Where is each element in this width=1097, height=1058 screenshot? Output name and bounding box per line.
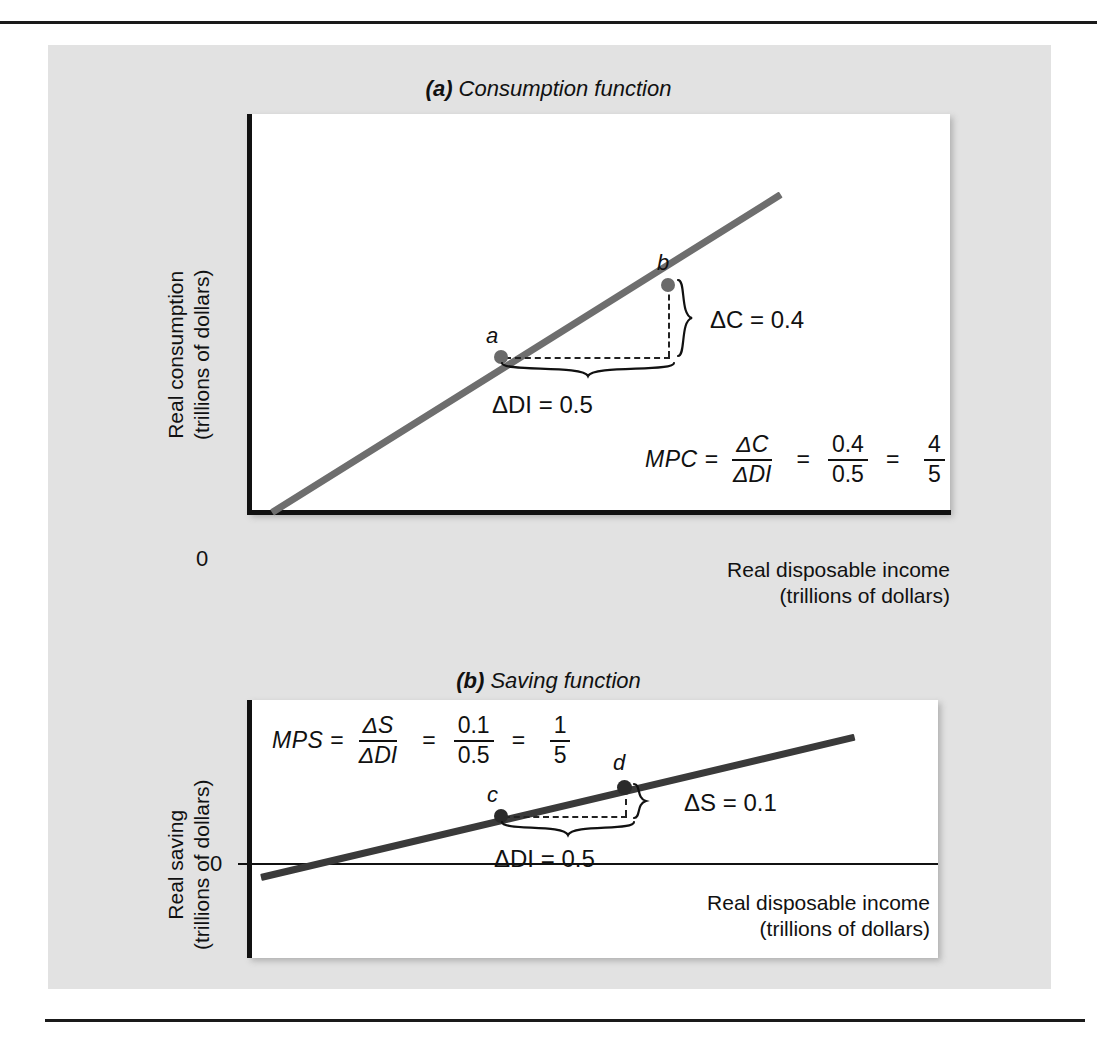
mpc-fraction-symbols: ΔC ΔDI bbox=[729, 432, 775, 488]
mps-equation-name: MPS bbox=[272, 727, 323, 754]
mpc-equals-3: = bbox=[886, 446, 899, 473]
mps-equals-3: = bbox=[512, 727, 525, 754]
mpc-numerator-1: ΔC bbox=[732, 432, 772, 461]
panel-a-title-text: Consumption function bbox=[452, 76, 671, 101]
mps-numerator-1: ΔS bbox=[359, 713, 398, 742]
panel-b-origin-label: 0 bbox=[210, 851, 222, 877]
panel-a-x-axis-label-line2: (trillions of dollars) bbox=[470, 583, 950, 609]
panel-b-title: (b) Saving function bbox=[0, 668, 1097, 694]
mps-equals-2: = bbox=[422, 727, 435, 754]
mpc-denominator-2: 0.5 bbox=[828, 461, 868, 488]
point-d-label: d bbox=[613, 750, 625, 776]
panel-b-vertical-brace-icon bbox=[631, 782, 653, 822]
mpc-fraction-values: 0.4 0.5 bbox=[821, 432, 875, 488]
mpc-equation: MPC = ΔC ΔDI = 0.4 0.5 = 4 5 bbox=[645, 432, 952, 488]
panel-a-delta-c-annotation: ΔC = 0.4 bbox=[710, 306, 804, 334]
panel-a-x-axis-label-line1: Real disposable income bbox=[470, 557, 950, 583]
mps-numerator-2: 0.1 bbox=[454, 713, 494, 742]
mpc-numerator-3: 4 bbox=[924, 432, 945, 461]
panel-a-horizontal-brace-icon bbox=[500, 360, 678, 384]
panel-b-y-axis-label: Real saving (trillions of dollars) bbox=[163, 780, 214, 950]
panel-a-vertical-dashed-line bbox=[668, 285, 670, 357]
bottom-divider-rule bbox=[45, 1019, 1085, 1022]
panel-a-letter: (a) bbox=[426, 76, 453, 101]
panel-a-y-axis-label: Real consumption (trillions of dollars) bbox=[163, 270, 214, 440]
figure-root: (a) Consumption function Real consumptio… bbox=[0, 0, 1097, 1058]
point-a-label: a bbox=[486, 323, 498, 349]
panel-a-x-axis bbox=[247, 510, 951, 515]
mps-denominator-3: 5 bbox=[550, 742, 571, 769]
mpc-equation-name: MPC bbox=[645, 446, 698, 473]
mps-fraction-result: 1 5 bbox=[546, 713, 574, 769]
panel-b-y-axis bbox=[247, 700, 252, 958]
mps-fraction-values: 0.1 0.5 bbox=[447, 713, 501, 769]
point-c-label: c bbox=[487, 782, 498, 808]
point-b-marker bbox=[661, 278, 675, 292]
panel-b-title-text: Saving function bbox=[484, 668, 641, 693]
panel-a-vertical-brace-icon bbox=[675, 278, 701, 360]
panel-b-horizontal-dashed-line bbox=[504, 816, 627, 818]
panel-b-delta-di-annotation: ΔDI = 0.5 bbox=[494, 845, 595, 873]
mps-denominator-2: 0.5 bbox=[454, 742, 494, 769]
panel-a-origin-label: 0 bbox=[196, 546, 208, 572]
mpc-denominator-3: 5 bbox=[924, 461, 945, 488]
panel-a-y-axis-label-line2: (trillions of dollars) bbox=[189, 270, 215, 440]
panel-b-x-axis-label-line2: (trillions of dollars) bbox=[450, 916, 930, 942]
panel-b-y-axis-label-line1: Real saving bbox=[163, 780, 189, 950]
panel-a-y-axis bbox=[247, 114, 252, 514]
panel-b-x-axis-label-line1: Real disposable income bbox=[450, 890, 930, 916]
panel-a-x-axis-label: Real disposable income (trillions of dol… bbox=[470, 557, 950, 608]
panel-b-delta-s-annotation: ΔS = 0.1 bbox=[684, 789, 777, 817]
panel-a-delta-di-annotation: ΔDI = 0.5 bbox=[492, 391, 593, 419]
mps-fraction-symbols: ΔS ΔDI bbox=[355, 713, 401, 769]
top-divider-rule bbox=[0, 21, 1097, 24]
panel-a-horizontal-dashed-line bbox=[505, 357, 670, 359]
mpc-equals-1: = bbox=[705, 446, 718, 473]
point-d-marker bbox=[617, 780, 632, 795]
panel-a-y-axis-label-line1: Real consumption bbox=[163, 270, 189, 440]
mpc-equals-2: = bbox=[797, 446, 810, 473]
mps-equals-1: = bbox=[330, 727, 343, 754]
point-b-label: b bbox=[657, 250, 669, 276]
panel-b-letter: (b) bbox=[456, 668, 484, 693]
mps-denominator-1: ΔDI bbox=[355, 742, 401, 769]
mpc-denominator-1: ΔDI bbox=[729, 461, 775, 488]
panel-a-title: (a) Consumption function bbox=[0, 76, 1097, 102]
panel-b-horizontal-brace-icon bbox=[500, 819, 638, 843]
mps-numerator-3: 1 bbox=[550, 713, 571, 742]
mpc-fraction-result: 4 5 bbox=[920, 432, 948, 488]
mpc-numerator-2: 0.4 bbox=[828, 432, 868, 461]
panel-b-x-axis-label: Real disposable income (trillions of dol… bbox=[450, 890, 930, 941]
mps-equation: MPS = ΔS ΔDI = 0.1 0.5 = 1 5 bbox=[272, 713, 578, 769]
